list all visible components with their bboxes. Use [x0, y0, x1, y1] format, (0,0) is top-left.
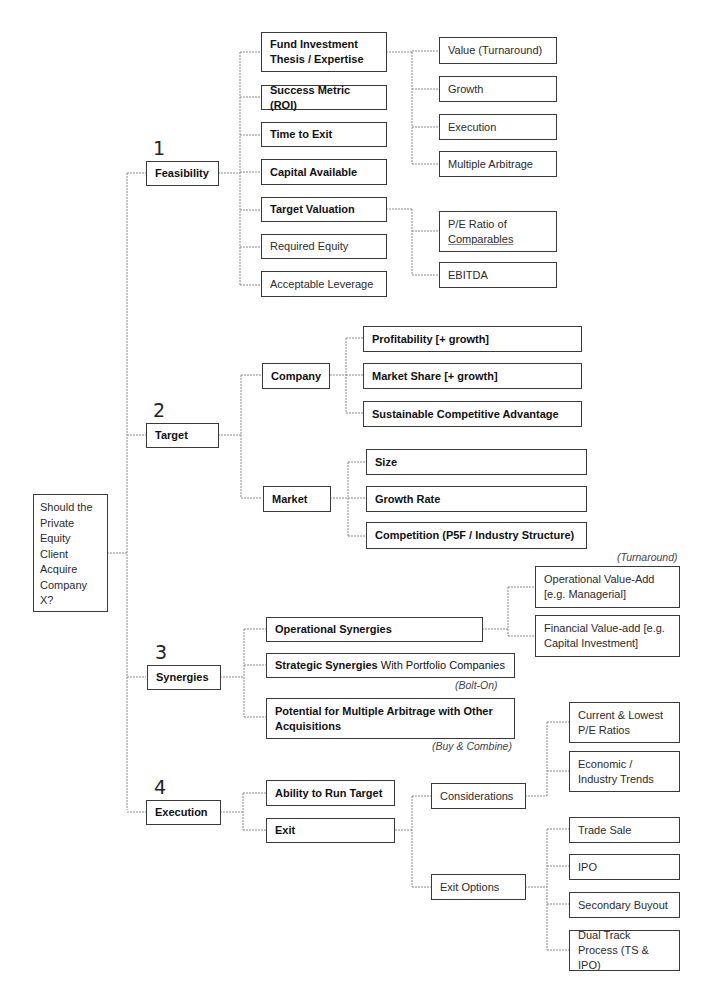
pe-ratio-label-line2: Comparables [448, 232, 513, 247]
competition-label: Competition (P5F / Industry Structure) [375, 528, 574, 543]
dual-track-node: Dual Track Process (TS & IPO) [569, 930, 680, 971]
synergies-label: Synergies [156, 670, 209, 685]
target-valuation-label: Target Valuation [270, 202, 355, 217]
company-node: Company [262, 363, 330, 389]
capital-available-label: Capital Available [270, 165, 357, 180]
success-metric-node: Success Metric (ROI) [261, 85, 387, 110]
market-node: Market [263, 486, 331, 512]
competitive-advantage-node: Sustainable Competitive Advantage [363, 401, 582, 427]
pe-ratios-label: Current & Lowest P/E Ratios [578, 708, 671, 738]
required-equity-node: Required Equity [261, 234, 387, 259]
size-label: Size [375, 455, 397, 470]
secondary-buyout-node: Secondary Buyout [569, 892, 680, 918]
target-node: Target [146, 423, 219, 448]
multiple-arbitrage-acquisitions-node: Potential for Multiple Arbitrage with Ot… [266, 698, 515, 739]
financial-value-add-label: Financial Value-add [e.g. Capital Invest… [544, 621, 671, 651]
feasibility-label: Feasibility [155, 166, 209, 181]
competition-node: Competition (P5F / Industry Structure) [366, 522, 587, 549]
exit-label: Exit [275, 823, 295, 838]
profitability-label: Profitability [+ growth] [372, 332, 489, 347]
synergies-node: Synergies [147, 665, 221, 690]
strategic-synergies-label: Strategic Synergies [275, 659, 378, 671]
growth-rate-label: Growth Rate [375, 492, 440, 507]
fund-investment-thesis-node: Fund Investment Thesis / Expertise [261, 32, 387, 72]
fund-investment-thesis-label: Fund Investment Thesis / Expertise [270, 37, 378, 67]
ipo-label: IPO [578, 860, 597, 875]
exit-options-label: Exit Options [440, 880, 499, 895]
financial-value-add-node: Financial Value-add [e.g. Capital Invest… [535, 615, 680, 657]
market-label: Market [272, 492, 307, 507]
branch-number-3: 3 [155, 641, 167, 663]
issue-tree-diagram: Should the Private Equity Client Acquire… [0, 0, 715, 1000]
dual-track-label: Dual Track Process (TS & IPO) [578, 928, 671, 973]
execution-strategy-node: Execution [439, 114, 557, 140]
size-node: Size [366, 449, 587, 475]
market-share-node: Market Share [+ growth] [363, 363, 582, 389]
trade-sale-node: Trade Sale [569, 817, 680, 843]
value-turnaround-label: Value (Turnaround) [448, 43, 542, 58]
pe-ratio-label-line1: P/E Ratio of [448, 217, 507, 232]
required-equity-label: Required Equity [270, 239, 348, 254]
growth-rate-node: Growth Rate [366, 486, 587, 512]
considerations-node: Considerations [431, 783, 526, 809]
company-label: Company [271, 369, 321, 384]
execution-label: Execution [155, 805, 208, 820]
time-to-exit-node: Time to Exit [261, 122, 387, 147]
acceptable-leverage-label: Acceptable Leverage [270, 277, 373, 292]
execution-node: Execution [146, 800, 221, 825]
growth-node: Growth [439, 76, 557, 102]
multiple-arbitrage-label: Multiple Arbitrage [448, 157, 533, 172]
multiple-arbitrage-acquisitions-label: Potential for Multiple Arbitrage with Ot… [275, 704, 506, 734]
bolt-on-note: (Bolt-On) [455, 679, 498, 691]
root-question-text: Should the Private Equity Client Acquire… [40, 500, 101, 609]
success-metric-label: Success Metric (ROI) [270, 83, 378, 113]
acceptable-leverage-node: Acceptable Leverage [261, 271, 387, 297]
target-label: Target [155, 428, 188, 443]
ebitda-label: EBITDA [448, 268, 488, 283]
feasibility-node: Feasibility [146, 161, 219, 186]
target-valuation-node: Target Valuation [261, 197, 387, 222]
operational-value-add-label: Operational Value-Add [e.g. Managerial] [544, 572, 671, 602]
branch-number-2: 2 [153, 399, 165, 421]
branch-number-1: 1 [153, 137, 165, 159]
execution-strategy-label: Execution [448, 120, 496, 135]
exit-options-node: Exit Options [431, 874, 526, 900]
time-to-exit-label: Time to Exit [270, 127, 332, 142]
strategic-synergies-label-rest: With Portfolio Companies [378, 659, 505, 671]
pe-ratio-node: P/E Ratio of Comparables [439, 211, 557, 252]
ability-to-run-target-node: Ability to Run Target [266, 780, 395, 806]
value-turnaround-node: Value (Turnaround) [439, 37, 557, 64]
profitability-node: Profitability [+ growth] [363, 326, 582, 352]
strategic-synergies-node: Strategic Synergies With Portfolio Compa… [266, 653, 515, 678]
pe-ratios-node: Current & Lowest P/E Ratios [569, 702, 680, 743]
capital-available-node: Capital Available [261, 159, 387, 185]
trade-sale-label: Trade Sale [578, 823, 631, 838]
operational-synergies-node: Operational Synergies [266, 617, 483, 642]
buy-and-combine-note: (Buy & Combine) [432, 740, 512, 752]
ipo-node: IPO [569, 854, 680, 880]
market-share-label: Market Share [+ growth] [372, 369, 498, 384]
ability-to-run-target-label: Ability to Run Target [275, 786, 382, 801]
branch-number-4: 4 [154, 776, 166, 798]
competitive-advantage-label: Sustainable Competitive Advantage [372, 407, 559, 422]
exit-node: Exit [266, 818, 395, 843]
root-question-box: Should the Private Equity Client Acquire… [33, 494, 108, 612]
considerations-label: Considerations [440, 789, 513, 804]
turnaround-note: (Turnaround) [617, 551, 678, 563]
multiple-arbitrage-node: Multiple Arbitrage [439, 151, 557, 177]
economic-trends-node: Economic / Industry Trends [569, 751, 680, 792]
secondary-buyout-label: Secondary Buyout [578, 898, 668, 913]
economic-trends-label: Economic / Industry Trends [578, 757, 671, 787]
operational-synergies-label: Operational Synergies [275, 622, 392, 637]
operational-value-add-node: Operational Value-Add [e.g. Managerial] [535, 566, 680, 608]
growth-label: Growth [448, 82, 483, 97]
ebitda-node: EBITDA [439, 262, 557, 288]
